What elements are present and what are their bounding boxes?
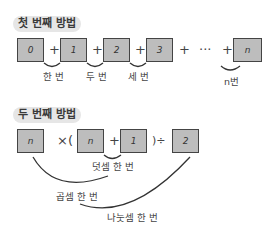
term-box-0: 0	[17, 38, 44, 62]
factor-box-n: n	[17, 129, 44, 153]
plus-operator: +	[135, 43, 146, 57]
method1-title: 첫 번째 방법	[13, 16, 81, 32]
paren-divide-operator: )÷	[152, 134, 166, 148]
term-box-1: 1	[60, 38, 87, 62]
divisor-box-2: 2	[172, 129, 199, 153]
term-box-3: 3	[146, 38, 173, 62]
plus-operator: +	[92, 43, 103, 57]
method2-title: 두 번째 방법	[13, 107, 81, 123]
term-box-n: n	[233, 38, 262, 62]
label-multiplication-once: 곱셈 한 번	[56, 191, 98, 203]
label-division-once: 나눗셈 한 번	[107, 212, 158, 224]
label-once: 한 번	[43, 71, 64, 83]
label-addition-once: 덧셈 한 번	[92, 161, 134, 173]
label-twice: 두 번	[86, 71, 107, 83]
plus-operator: +	[179, 43, 190, 57]
label-n-times: n번	[224, 76, 239, 88]
label-three-times: 세 번	[128, 71, 149, 83]
plus-operator: +	[109, 134, 120, 148]
sum-box-n: n	[77, 129, 104, 153]
ellipsis: ···	[199, 43, 211, 57]
plus-operator: +	[222, 43, 233, 57]
plus-operator: +	[49, 43, 60, 57]
term-box-2: 2	[103, 38, 130, 62]
multiply-paren-operator: ×(	[57, 134, 73, 148]
sum-box-1: 1	[120, 129, 147, 153]
